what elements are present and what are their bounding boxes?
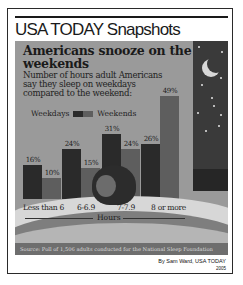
category-label: 8 or more bbox=[151, 203, 186, 212]
value-label: 31% bbox=[100, 125, 124, 133]
year: 2005 bbox=[216, 266, 226, 271]
brand-title: USA TODAY Snapshots bbox=[15, 20, 180, 40]
axis-line bbox=[25, 218, 93, 219]
axis-label: Hours bbox=[97, 213, 121, 222]
category-label: Less than 6 bbox=[23, 203, 64, 212]
category-label: 7-7.9 bbox=[117, 203, 135, 212]
value-label: 15% bbox=[79, 159, 103, 167]
value-label: 49% bbox=[158, 87, 182, 95]
value-label: 24% bbox=[60, 140, 84, 148]
infographic-panel: Americans snooze on the weekends Number … bbox=[15, 41, 228, 255]
top-rule bbox=[15, 16, 228, 18]
bar-weekends bbox=[160, 96, 179, 199]
axis-line bbox=[123, 218, 185, 219]
value-label: 16% bbox=[21, 156, 45, 164]
byline: By Sam Ward, USA TODAY bbox=[158, 258, 226, 264]
bar-weekdays bbox=[141, 144, 160, 199]
source-note: Source: Poll of 1,506 adults conducted f… bbox=[15, 243, 228, 255]
bar-weekdays bbox=[62, 149, 81, 199]
bar-weekends bbox=[42, 178, 61, 199]
value-label: 10% bbox=[40, 169, 64, 177]
sleeper-face bbox=[96, 175, 116, 197]
category-label: 6-6.9 bbox=[77, 203, 95, 212]
